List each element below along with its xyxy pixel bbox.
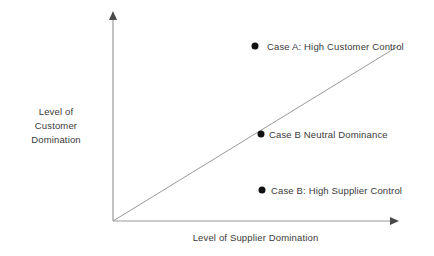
data-point-case-b-neutral	[258, 131, 265, 138]
y-axis-title-line-3: Domination	[8, 133, 104, 147]
y-axis-title-line-1: Level of	[8, 105, 104, 119]
x-axis-arrow-icon	[390, 217, 399, 225]
data-point-case-a	[252, 43, 259, 50]
data-point-label-case-a: Case A: High Customer Control	[267, 41, 404, 52]
data-point-case-b-supplier	[259, 187, 266, 194]
data-point-label-case-b-supplier: Case B: High Supplier Control	[271, 185, 402, 196]
y-axis-title: Level of Customer Domination	[8, 105, 104, 147]
x-axis-title: Level of Supplier Domination	[113, 231, 398, 245]
data-point-label-case-b-neutral: Case B Neutral Dominance	[269, 129, 388, 140]
y-axis-arrow-icon	[109, 11, 117, 20]
diagram-canvas: Case A: High Customer Control Case B Neu…	[0, 0, 434, 256]
y-axis-title-line-2: Customer	[8, 119, 104, 133]
